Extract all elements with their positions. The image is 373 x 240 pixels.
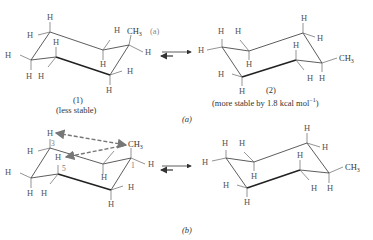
methyl-label-b-right: CH3 bbox=[345, 162, 360, 173]
svg-text:H: H bbox=[218, 69, 224, 79]
svg-text:H: H bbox=[5, 50, 11, 60]
svg-text:H: H bbox=[127, 66, 133, 76]
svg-text:H: H bbox=[108, 199, 114, 209]
diaxial-interaction-arrows-icon bbox=[56, 133, 126, 157]
svg-text:H: H bbox=[145, 47, 151, 57]
svg-text:H: H bbox=[307, 73, 313, 83]
svg-text:H: H bbox=[27, 30, 33, 40]
svg-text:H: H bbox=[38, 71, 44, 81]
svg-text:H: H bbox=[5, 167, 11, 177]
svg-text:H: H bbox=[27, 188, 33, 198]
svg-text:H: H bbox=[322, 142, 328, 152]
svg-text:H: H bbox=[304, 123, 310, 133]
svg-text:H: H bbox=[53, 37, 59, 47]
carbon-number-3: 3 bbox=[51, 139, 55, 148]
svg-text:H: H bbox=[222, 138, 228, 148]
svg-text:H: H bbox=[239, 138, 245, 148]
svg-text:H: H bbox=[311, 183, 317, 193]
structure-1-axial-methyl: H H H H H H H H H H H CH3 (a) (1) (less … bbox=[5, 12, 160, 115]
methyl-label-2: CH3 bbox=[339, 53, 354, 64]
panel-b-caption: (b) bbox=[182, 225, 192, 235]
svg-text:H: H bbox=[239, 86, 245, 96]
svg-text:H: H bbox=[26, 71, 32, 81]
svg-text:H: H bbox=[327, 183, 333, 193]
structure-1-number: (1) bbox=[73, 95, 83, 105]
svg-text:H: H bbox=[317, 33, 323, 43]
svg-text:H: H bbox=[55, 152, 61, 162]
svg-text:H: H bbox=[218, 26, 224, 36]
structure-2-equatorial-methyl: H H H H H H H H H H H CH3 (2) (more stab… bbox=[198, 13, 354, 108]
structure-b-left-diaxial: H H H H H H H H H H CH3 3 5 1 bbox=[5, 128, 154, 209]
svg-text:H: H bbox=[223, 180, 229, 190]
svg-text:H: H bbox=[100, 59, 106, 69]
structure-1-stability: (less stable) bbox=[56, 105, 97, 115]
svg-text:H: H bbox=[114, 25, 120, 35]
equilibrium-arrows-icon bbox=[161, 52, 191, 56]
svg-text:H: H bbox=[251, 171, 257, 181]
structure-b-right-equatorial: H H H H H H H H H H H CH3 bbox=[202, 123, 360, 207]
svg-text:H: H bbox=[301, 13, 307, 23]
svg-text:H: H bbox=[106, 85, 112, 95]
methylcyclohexane-conformations-diagram: H H H H H H H H H H H CH3 (a) (1) (less … bbox=[0, 0, 373, 240]
structure-2-stability: (more stable by 1.8 kcal mol−1) bbox=[212, 97, 319, 108]
svg-text:H: H bbox=[101, 172, 107, 182]
svg-text:H: H bbox=[128, 182, 134, 192]
methyl-label-1: CH3 bbox=[127, 26, 142, 37]
methyl-label-b-left: CH3 bbox=[128, 139, 143, 150]
svg-text:H: H bbox=[246, 59, 252, 69]
svg-text:H: H bbox=[297, 150, 303, 160]
svg-text:H: H bbox=[47, 128, 53, 138]
svg-text:H: H bbox=[235, 26, 241, 36]
svg-text:H: H bbox=[293, 40, 299, 50]
svg-text:H: H bbox=[244, 197, 250, 207]
svg-text:H: H bbox=[41, 188, 47, 198]
carbon-number-1: 1 bbox=[131, 161, 135, 170]
panel-a-caption: (a) bbox=[182, 114, 192, 124]
svg-text:H: H bbox=[47, 12, 53, 22]
carbon-number-5: 5 bbox=[62, 164, 66, 173]
equilibrium-arrows-icon-b bbox=[161, 166, 191, 170]
svg-text:H: H bbox=[198, 45, 204, 55]
svg-text:H: H bbox=[148, 159, 154, 169]
svg-text:H: H bbox=[202, 157, 208, 167]
svg-text:H: H bbox=[27, 146, 33, 156]
axial-position-label: (a) bbox=[150, 26, 160, 36]
structure-2-number: (2) bbox=[266, 85, 276, 95]
svg-text:H: H bbox=[319, 73, 325, 83]
